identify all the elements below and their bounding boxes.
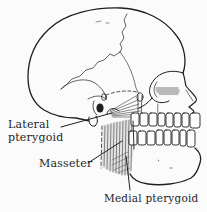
anatomy-figure: Lateral pterygoid Masseter Medial pteryg… xyxy=(0,0,207,212)
cranium-outline xyxy=(28,8,185,121)
label-medial-pterygoid: Medial pterygoid xyxy=(104,192,198,205)
orbital-fissure-hatch xyxy=(156,88,179,94)
eye-orbit xyxy=(150,71,183,102)
label-masseter: Masseter xyxy=(39,157,92,170)
masseter-muscle-shading xyxy=(101,119,134,176)
coronal-suture xyxy=(120,14,127,52)
lower-teeth xyxy=(129,130,195,147)
upper-teeth xyxy=(131,113,200,128)
label-lateral-pterygoid: Lateral pterygoid xyxy=(8,118,63,144)
lambdoid-suture xyxy=(61,52,120,89)
skull-illustration xyxy=(0,0,207,212)
squamosal-suture xyxy=(61,52,139,99)
ear-canal xyxy=(88,96,106,115)
zygomatic-arch-cut xyxy=(102,91,143,101)
parietal-marks xyxy=(96,21,109,23)
